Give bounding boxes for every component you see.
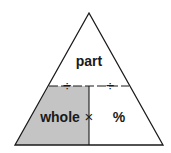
- part-label: part: [76, 53, 103, 69]
- percent-triangle-diagram: part whole % ÷ ÷ ×: [0, 0, 171, 153]
- whole-label: whole: [39, 109, 80, 125]
- percent-label: %: [113, 109, 126, 125]
- divide-left-icon: ÷: [63, 77, 71, 94]
- divide-right-icon: ÷: [106, 77, 114, 94]
- multiply-icon: ×: [85, 108, 94, 125]
